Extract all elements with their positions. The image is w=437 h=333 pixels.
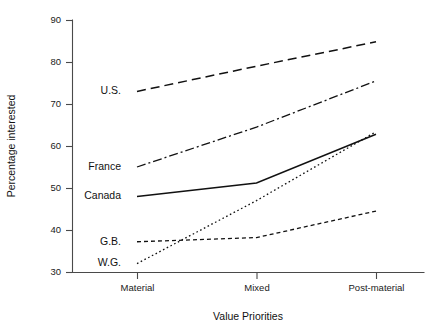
series-label-us: U.S. — [101, 84, 121, 96]
x-tick-label: Material — [121, 282, 155, 293]
series-label-canada: Canada — [84, 189, 121, 201]
y-tick-label: 40 — [50, 224, 61, 235]
x-tick-label: Post-material — [349, 282, 405, 293]
y-tick-label: 30 — [50, 266, 61, 277]
y-tick-label: 70 — [50, 98, 61, 109]
series-label-wg: W.G. — [98, 256, 121, 268]
y-tick-label: 80 — [50, 56, 61, 67]
line-chart: 30405060708090 MaterialMixedPost-materia… — [0, 0, 437, 333]
y-axis-title: Percentage interested — [5, 94, 17, 197]
y-tick-label: 90 — [50, 14, 61, 25]
x-axis-title: Value Priorities — [213, 310, 283, 322]
series-label-france: France — [88, 160, 121, 172]
series-label-gb: G.B. — [100, 235, 121, 247]
chart-container: 30405060708090 MaterialMixedPost-materia… — [0, 0, 437, 333]
x-tick-label: Mixed — [244, 282, 269, 293]
y-tick-label: 60 — [50, 140, 61, 151]
y-tick-label: 50 — [50, 182, 61, 193]
